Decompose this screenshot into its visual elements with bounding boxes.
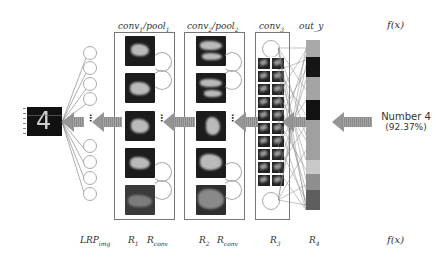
out-y-relevance-column <box>306 40 320 210</box>
input-digit-image: 4 <box>27 107 62 136</box>
fx-bottom-label: f(x) <box>387 234 404 245</box>
relevance-arrow <box>163 114 195 130</box>
input-neuron <box>83 77 97 91</box>
out-y-label: out_y <box>299 21 323 31</box>
fx-top-label: f(x) <box>387 19 404 30</box>
conv2-loop <box>222 180 242 200</box>
relevance-arrow <box>92 114 122 130</box>
lrp-img-label: LRPimg <box>80 235 110 247</box>
input-neuron <box>83 139 97 153</box>
input-neuron <box>83 187 97 201</box>
r3-label: R3 <box>270 235 281 247</box>
prediction-confidence: (92.37%) <box>376 122 436 133</box>
out-y-segment <box>306 174 320 190</box>
conv2-feature-map <box>196 111 226 141</box>
conv1-feature-map <box>125 111 155 141</box>
input-neuron <box>83 92 97 106</box>
conv1-feature-map <box>125 36 155 66</box>
out-y-segment <box>306 120 320 160</box>
relevance-arrow <box>62 114 84 130</box>
conv1-feature-map <box>125 185 155 215</box>
conv1-loop <box>152 180 172 200</box>
out-y-segment <box>306 190 320 210</box>
input-neuron <box>83 155 97 169</box>
relevance-arrow <box>282 114 306 130</box>
out-y-segment <box>306 100 320 120</box>
out-y-segment <box>306 40 320 57</box>
conv1-loop <box>152 70 172 90</box>
r1-label: R1 <box>128 235 139 247</box>
r4-label: R4 <box>309 235 320 247</box>
conv2-loop <box>222 52 242 72</box>
prediction-label: Number 4 <box>376 111 436 122</box>
out-y-segment <box>306 57 320 77</box>
rconv1-label: Rconv <box>147 235 168 247</box>
input-neuron <box>83 171 97 185</box>
prediction-arrow <box>332 114 372 130</box>
r2-label: R2 <box>199 235 210 247</box>
conv1-feature-map <box>125 73 155 103</box>
conv1-loop <box>152 162 172 182</box>
out-y-segment <box>306 77 320 100</box>
prediction-result: Number 4 (92.37%) <box>376 111 436 133</box>
input-digit-glyph: 4 <box>36 107 51 135</box>
input-neuron <box>83 46 97 60</box>
rconv2-label: Rconv <box>217 235 238 247</box>
conv2-loop <box>222 162 242 182</box>
out-y-segment <box>306 160 320 174</box>
conv2-loop <box>222 70 242 90</box>
conv1-feature-map <box>125 148 155 178</box>
relevance-arrow <box>234 114 258 130</box>
input-neuron <box>83 61 97 75</box>
conv1-loop <box>152 52 172 72</box>
